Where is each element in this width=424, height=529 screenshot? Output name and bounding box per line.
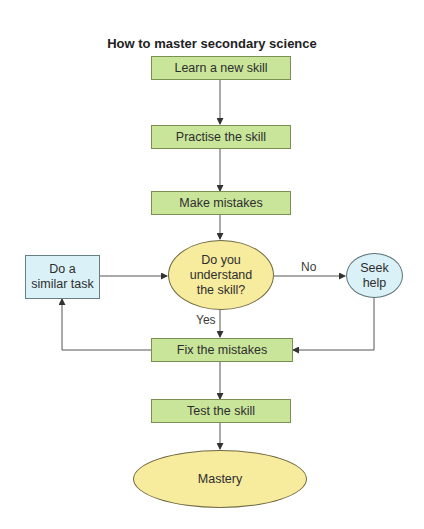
step-learn-new-skill: Learn a new skill — [151, 56, 291, 80]
edge-label-yes: Yes — [196, 313, 216, 327]
outcome-mastery: Mastery — [133, 450, 307, 508]
step-make-mistakes: Make mistakes — [151, 191, 291, 215]
step-similar-task: Do a similar task — [25, 255, 100, 299]
decision-understand-skill: Do you understand the skill? — [168, 240, 274, 310]
step-test-skill: Test the skill — [151, 399, 291, 423]
step-practise-skill: Practise the skill — [151, 125, 291, 149]
step-seek-help: Seek help — [346, 253, 403, 298]
step-fix-mistakes: Fix the mistakes — [151, 338, 293, 362]
edge-label-no: No — [301, 260, 316, 274]
